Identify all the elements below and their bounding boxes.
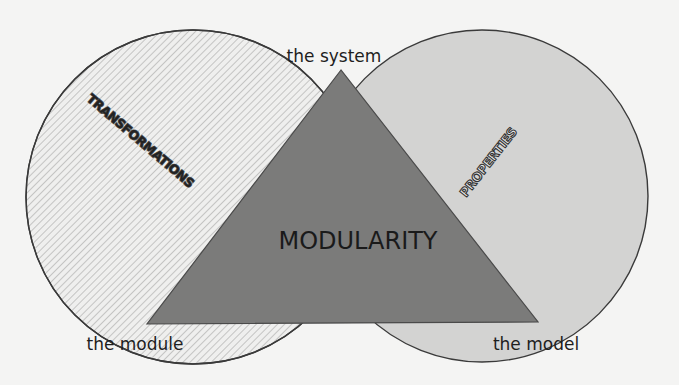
modularity-label: MODULARITY xyxy=(278,227,437,255)
vertex-label-model: the model xyxy=(493,334,579,354)
vertex-label-module: the module xyxy=(86,334,183,354)
modularity-diagram: TRANSFORMATIONS PROPERTIES MODULARITY th… xyxy=(0,0,679,385)
vertex-label-system: the system xyxy=(287,46,382,66)
